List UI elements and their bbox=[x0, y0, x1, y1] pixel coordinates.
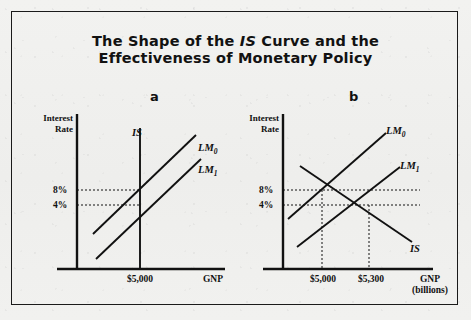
panel-b-curve-lm0 bbox=[288, 133, 386, 219]
panel-b-curve-lm1 bbox=[297, 167, 400, 247]
panel-b-plot bbox=[0, 0, 471, 320]
figure-root: The Shape of the IS Curve and the Effect… bbox=[0, 0, 471, 320]
